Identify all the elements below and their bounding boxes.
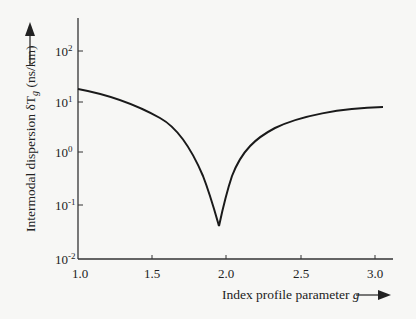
dispersion-chart: 102 101 100 10-1 10-2 1.0 1.5 2.0 2.5 3.… (0, 0, 416, 319)
y-arrowhead-icon (25, 22, 35, 36)
svg-text:Index profile parameter g: Index profile parameter g (222, 287, 360, 302)
svg-text:10-1: 10-1 (55, 197, 76, 213)
svg-text:Intermodal dispersion δTg (ns/: Intermodal dispersion δTg (ns/km) (23, 46, 40, 232)
svg-text:100: 100 (55, 144, 73, 160)
svg-text:1.0: 1.0 (72, 266, 88, 281)
y-axis-title: Intermodal dispersion δTg (ns/km) (23, 22, 40, 232)
x-tick-labels: 1.0 1.5 2.0 2.5 3.0 (72, 266, 383, 281)
x-axis-title: Index profile parameter g (222, 287, 391, 302)
svg-text:102: 102 (55, 43, 73, 59)
x-arrowhead-icon (378, 290, 391, 300)
svg-text:2.0: 2.0 (218, 266, 234, 281)
svg-text:1.5: 1.5 (144, 266, 160, 281)
svg-text:2.5: 2.5 (293, 266, 309, 281)
svg-text:101: 101 (55, 94, 73, 110)
y-tick-labels: 102 101 100 10-1 10-2 (55, 43, 76, 267)
svg-text:3.0: 3.0 (367, 266, 383, 281)
y-ticks (78, 51, 83, 205)
svg-text:10-2: 10-2 (55, 251, 76, 267)
dispersion-curve (78, 89, 383, 226)
